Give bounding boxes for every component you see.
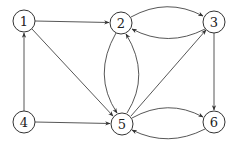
edge-5-to-3	[131, 30, 206, 116]
edge-5-to-6	[132, 108, 203, 118]
node-3: 3	[203, 11, 225, 33]
node-label: 2	[117, 16, 125, 31]
node-label: 5	[118, 117, 126, 132]
edge-1-to-2	[35, 21, 109, 23]
node-5: 5	[111, 113, 133, 135]
edge-6-to-5	[132, 129, 205, 139]
node-1: 1	[13, 10, 35, 32]
node-label: 3	[210, 15, 218, 30]
edge-2-to-3	[131, 7, 203, 17]
node-2: 2	[110, 12, 132, 34]
edge-1-to-5	[32, 29, 113, 116]
node-label: 1	[20, 14, 28, 29]
edge-3-to-2	[132, 29, 205, 39]
node-6: 6	[203, 111, 225, 133]
node-label: 6	[210, 115, 218, 130]
node-label: 4	[20, 115, 28, 130]
node-4: 4	[13, 111, 35, 133]
graph-canvas: 1 2 3 4 5 6	[0, 0, 237, 145]
edge-4-to-5	[35, 122, 110, 124]
edge-2-to-5	[104, 33, 117, 113]
edge-5-to-2	[126, 34, 139, 113]
